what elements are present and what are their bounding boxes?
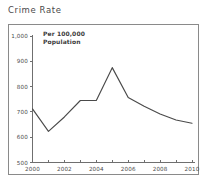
x-tick-label: 2004 (89, 166, 104, 172)
y-tick-label: 700 (17, 109, 28, 115)
x-tick-label: 2006 (121, 166, 136, 172)
y-axis-tick-labels: 5006007008009001,000 (11, 33, 28, 166)
annotation-line-1: Per 100,000 (43, 30, 85, 37)
x-tick-label: 2010 (185, 166, 200, 172)
x-tick-label: 2002 (57, 166, 72, 172)
page-title: Crime Rate (8, 5, 62, 15)
annotation-line-2: Population (43, 38, 81, 45)
y-tick-label: 900 (17, 58, 28, 64)
x-tick-label: 2000 (25, 166, 40, 172)
crime-rate-line (33, 68, 193, 132)
chart-annotation: Per 100,000Population (43, 30, 85, 46)
x-tick-label: 2008 (153, 166, 168, 172)
y-tick-label: 600 (17, 134, 28, 140)
x-axis-tick-labels: 200020022004200620082010 (25, 166, 200, 172)
y-tick-label: 1,000 (11, 33, 28, 39)
y-tick-label: 800 (17, 84, 28, 90)
chart-plot-area: 5006007008009001,000 2000200220042006200… (9, 25, 200, 176)
crime-rate-chart: 5006007008009001,000 2000200220042006200… (8, 24, 199, 175)
